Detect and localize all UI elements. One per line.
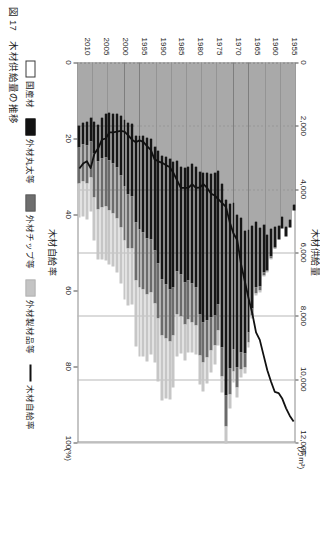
self-sufficiency-line [77,62,295,442]
right-axis-tickmark [73,62,77,63]
left-axis-tickmark [295,189,298,190]
left-axis-tick: 2,000 [298,115,307,135]
plot-area [77,62,295,442]
legend-item: 木材自給率 [24,364,36,429]
left-axis-title: 木材供給量 [308,228,311,276]
right-axis-tickmark [73,138,77,139]
left-axis-tick: 12,000 [298,430,307,454]
year-label: 1975 [214,37,223,55]
right-axis-tickmark [73,214,77,215]
left-axis-tickmark [295,252,298,253]
line-swatch [29,364,31,381]
year-label: 1985 [176,37,185,55]
legend-item: 外材チップ等 [24,194,36,268]
legend-label: 外材丸太等 [24,138,36,183]
year-label: 1990 [158,37,167,55]
right-axis-title: 木材自給率 [45,228,58,276]
self-sufficiency-path [79,130,293,421]
light-gray-square-swatch [25,279,35,296]
year-label: 2000 [120,37,129,55]
year-label: 1965 [252,37,261,55]
legend-item: 国産材 [24,60,36,107]
right-axis-tickmark [73,290,77,291]
legend-item: 外材製材品等 [24,279,36,353]
left-axis-tickmark [295,379,298,380]
figure-number: 図 17 [7,6,18,31]
year-label: 1960 [270,37,279,55]
year-label: 1980 [195,37,204,55]
figure-container: (万m³) 木材供給量 (%) 木材自給率 02,0004,0006,0008,… [0,0,311,545]
left-axis-tickmark [295,315,298,316]
rotated-page-wrapper: (万m³) 木材供給量 (%) 木材自給率 02,0004,0006,0008,… [0,0,311,545]
legend-label: 木材自給率 [24,384,36,429]
year-label: 2010 [82,37,91,55]
white-square-swatch [25,60,35,77]
left-axis-tickmark [295,62,298,63]
legend-label: 外材チップ等 [24,214,36,268]
dark-gray-square-swatch [25,194,35,211]
right-axis-tick: 40 [63,210,72,219]
left-axis-tick: 10,000 [298,366,307,390]
right-axis-tick: 60 [63,286,72,295]
right-axis-unit: (%) [63,448,72,460]
legend-label: 国産材 [24,80,36,107]
left-axis-tickmark [295,125,298,126]
right-axis-tickmark [73,442,77,443]
right-axis-tick: 100 [63,435,72,448]
legend-item: 外材丸太等 [24,118,36,183]
left-axis-tickmark [295,442,298,443]
year-label: 1995 [139,37,148,55]
year-label: 1970 [233,37,242,55]
right-axis-tick: 80 [63,362,72,371]
left-axis-tick: 6,000 [298,242,307,262]
black-square-swatch [25,118,35,135]
figure-caption: 図 17 木材供給量の推移 [6,6,20,124]
left-axis-tick: 8,000 [298,305,307,325]
left-axis-tick: 0 [298,60,307,64]
left-axis-tick: 4,000 [298,179,307,199]
right-axis-tickmark [73,366,77,367]
right-axis-tick: 0 [63,60,72,64]
year-label: 1955 [289,37,298,55]
legend: 国産材外材丸太等外材チップ等外材製材品等木材自給率 [24,60,36,429]
legend-label: 外材製材品等 [24,299,36,353]
right-axis-tick: 20 [63,134,72,143]
figure-title: 木材供給量の推移 [7,41,18,124]
year-label: 2005 [101,37,110,55]
